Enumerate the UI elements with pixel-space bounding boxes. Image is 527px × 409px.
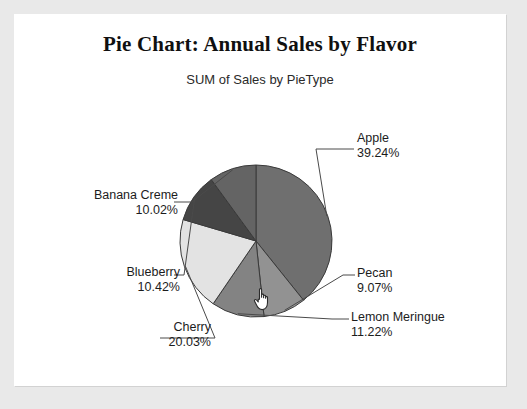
slice-label-lemon-meringue-percent: 11.22% (351, 325, 445, 340)
pie-plot-area: Apple 39.24% Pecan 9.07% Lemon Meringue … (14, 14, 506, 386)
slice-label-blueberry-name: Blueberry (127, 265, 181, 279)
slice-label-cherry-name: Cherry (173, 320, 211, 334)
chart-report-panel: Pie Chart: Annual Sales by Flavor SUM of… (14, 14, 506, 386)
slice-label-cherry-percent: 20.03% (14, 335, 211, 350)
slice-label-blueberry: Blueberry 10.42% (14, 265, 180, 295)
pie-slices-group[interactable] (180, 165, 332, 317)
slice-label-banana-creme-percent: 10.02% (14, 203, 178, 218)
slice-label-pecan: Pecan 9.07% (357, 266, 392, 296)
slice-label-apple-percent: 39.24% (357, 146, 399, 161)
slice-label-lemon-meringue-name: Lemon Meringue (351, 310, 445, 324)
slice-label-apple: Apple 39.24% (357, 131, 399, 161)
slice-label-banana-creme: Banana Creme 10.02% (14, 188, 178, 218)
slice-label-cherry: Cherry 20.03% (14, 320, 211, 350)
slice-label-pecan-percent: 9.07% (357, 281, 392, 296)
slice-label-pecan-name: Pecan (357, 266, 392, 280)
slice-label-blueberry-percent: 10.42% (14, 280, 180, 295)
screenshot-root: Pie Chart: Annual Sales by Flavor SUM of… (0, 0, 527, 409)
slice-label-lemon-meringue: Lemon Meringue 11.22% (351, 310, 445, 340)
slice-label-apple-name: Apple (357, 131, 389, 145)
slice-label-banana-creme-name: Banana Creme (94, 188, 178, 202)
